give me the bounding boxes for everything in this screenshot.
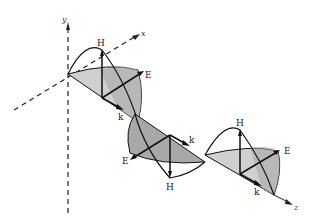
k-label-2: k [189, 135, 195, 145]
z-axis-label: z [293, 203, 299, 212]
e-label-3: E [284, 146, 291, 156]
y-axis-arrow-icon [66, 22, 70, 30]
h-label-1: H [97, 38, 105, 48]
e-label-2: E [122, 156, 129, 166]
k-label-3: k [254, 187, 260, 197]
y-axis-label: y [61, 15, 67, 24]
em-wave-diagram: y x H E k k E H H E k z [0, 0, 310, 218]
k-label-1: k [118, 112, 124, 122]
x-axis-arrow-icon [132, 34, 140, 40]
h-label-2: H [166, 182, 174, 192]
x-axis-label: x [141, 29, 146, 38]
h-label-3: H [236, 118, 244, 128]
z-axis-arrow-icon [285, 199, 293, 205]
e-label-1: E [145, 70, 152, 80]
